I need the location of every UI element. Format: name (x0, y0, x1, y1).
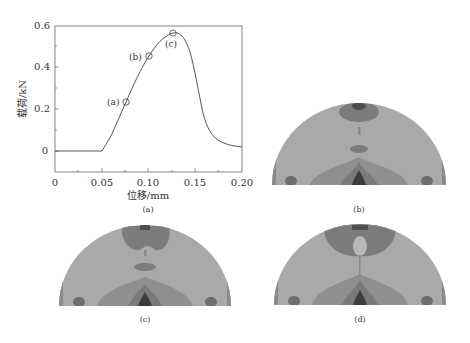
load-curve (55, 33, 242, 151)
annotation-c: (c) (165, 39, 177, 49)
x-tick-label: 0.15 (184, 177, 206, 188)
y-ticks (55, 46, 59, 151)
plot-frame (55, 26, 242, 172)
y-tick-label: 0 (42, 145, 48, 156)
contour-panel-c (55, 222, 235, 312)
contour-panel-b (270, 100, 450, 190)
panel-label-d: (d) (354, 315, 365, 324)
annotation-b: (b) (129, 52, 142, 62)
y-tick-label: 0.2 (34, 103, 50, 114)
y-tick-label: 0.6 (34, 20, 50, 31)
panel-label-b: (b) (353, 205, 364, 214)
x-tick-label: 0.10 (137, 177, 159, 188)
contour-panel-d (270, 220, 450, 310)
x-tick-label: 0.20 (231, 177, 253, 188)
load-displacement-chart: 0 0.2 0.4 0.6 0 0.05 0.10 0.15 0.20 位移/m… (0, 0, 470, 343)
x-tick-label: 0 (52, 177, 58, 188)
y-axis-label: 载荷/kN (17, 80, 28, 118)
y-tick-label: 0.4 (34, 61, 50, 72)
x-tick-label: 0.05 (91, 177, 113, 188)
panel-label-c: (c) (140, 315, 151, 324)
annotation-a: (a) (107, 97, 119, 107)
x-axis-label: 位移/mm (127, 189, 170, 201)
x-ticks (78, 168, 218, 172)
subfigure-label-a: (a) (142, 205, 153, 214)
